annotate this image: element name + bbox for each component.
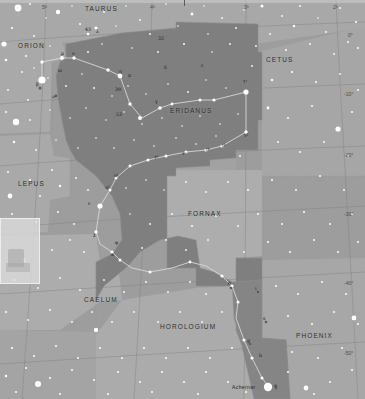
overlay-thumbnail-bar xyxy=(6,263,30,272)
star-chart[interactable]: 5ʰ 4ʰ 3ʰ 2ʰ 0° -10° -20° -30° -40° -50° … xyxy=(0,0,365,399)
top-edge-strip xyxy=(0,0,365,3)
overlay-thumbnail-panel[interactable] xyxy=(0,218,40,284)
top-tick-mark xyxy=(184,0,185,6)
sky-map-canvas xyxy=(0,0,365,399)
